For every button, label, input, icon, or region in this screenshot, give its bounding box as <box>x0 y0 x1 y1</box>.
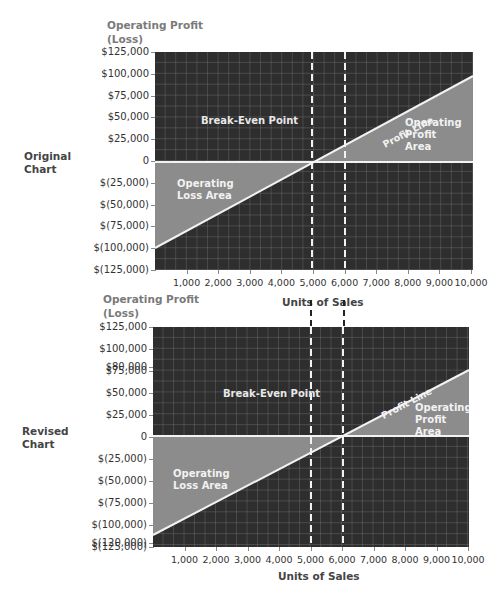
y-tick-label: $(125,000) <box>47 542 147 552</box>
x-tick-mark <box>439 270 440 274</box>
x-tick-mark <box>281 270 282 274</box>
plot-revised: Break-Even Point Profit Line OperatingPr… <box>153 327 469 547</box>
x-tick-label: 10,000 <box>446 554 490 565</box>
y-tick-label: $(100,000) <box>49 243 149 253</box>
y-tick-mark <box>149 547 154 548</box>
x-tick-mark <box>342 547 343 551</box>
x-tick-mark <box>408 270 409 274</box>
y-tick-label: $(50,000) <box>47 476 147 486</box>
y-tick-label: $25,000 <box>47 410 147 420</box>
y-tick-label: $(50,000) <box>49 200 149 210</box>
loss-area-label: OperatingLoss Area <box>173 468 230 491</box>
x-tick-mark <box>345 270 346 274</box>
break-even-label: Break-Even Point <box>223 388 320 399</box>
x-tick-mark <box>216 547 217 551</box>
x-tick-mark <box>405 547 406 551</box>
y-tick-label: $(75,000) <box>47 498 147 508</box>
x-tick-mark <box>279 547 280 551</box>
y-axis-title-original: Operating Profit (Loss) <box>107 18 203 46</box>
y-tick-label: 0 <box>49 156 149 166</box>
y-tick-label: $125,000 <box>49 47 149 57</box>
y-tick-label: $50,000 <box>47 388 147 398</box>
x-tick-label: 10,000 <box>449 277 493 288</box>
x-tick-mark <box>376 270 377 274</box>
loss-area-label: OperatingLoss Area <box>177 178 234 201</box>
y-tick-label: $(100,000) <box>47 520 147 530</box>
y-tick-label: $50,000 <box>49 112 149 122</box>
y-tick-label: $75,000 <box>47 366 147 376</box>
y-tick-label: $100,000 <box>49 69 149 79</box>
plot-original: Break-Even Point Profit Line OperatingPr… <box>155 52 473 270</box>
y-tick-label: $100,000 <box>47 344 147 354</box>
break-even-label: Break-Even Point <box>201 115 298 126</box>
x-tick-mark <box>468 547 469 551</box>
x-tick-mark <box>437 547 438 551</box>
y-tick-label: $(75,000) <box>49 221 149 231</box>
x-tick-mark <box>471 270 472 274</box>
y-tick-mark <box>151 270 156 271</box>
y-tick-label: 0 <box>47 432 147 442</box>
y-axis-title-revised: Operating Profit (Loss) <box>103 292 199 320</box>
y-tick-label: $75,000 <box>49 91 149 101</box>
x-tick-mark <box>374 547 375 551</box>
x-tick-mark <box>185 547 186 551</box>
y-tick-label: $(25,000) <box>47 454 147 464</box>
x-tick-mark <box>248 547 249 551</box>
x-tick-mark <box>313 270 314 274</box>
y-tick-label: $25,000 <box>49 134 149 144</box>
x-tick-mark <box>187 270 188 274</box>
x-tick-mark <box>218 270 219 274</box>
y-tick-label: $(25,000) <box>49 178 149 188</box>
y-tick-label: $125,000 <box>47 322 147 332</box>
y-tick-label: $(125,000) <box>49 265 149 275</box>
x-axis-title-revised: Units of Sales <box>278 570 360 582</box>
x-tick-mark <box>250 270 251 274</box>
dashed-connectors <box>300 300 360 328</box>
x-tick-mark <box>311 547 312 551</box>
